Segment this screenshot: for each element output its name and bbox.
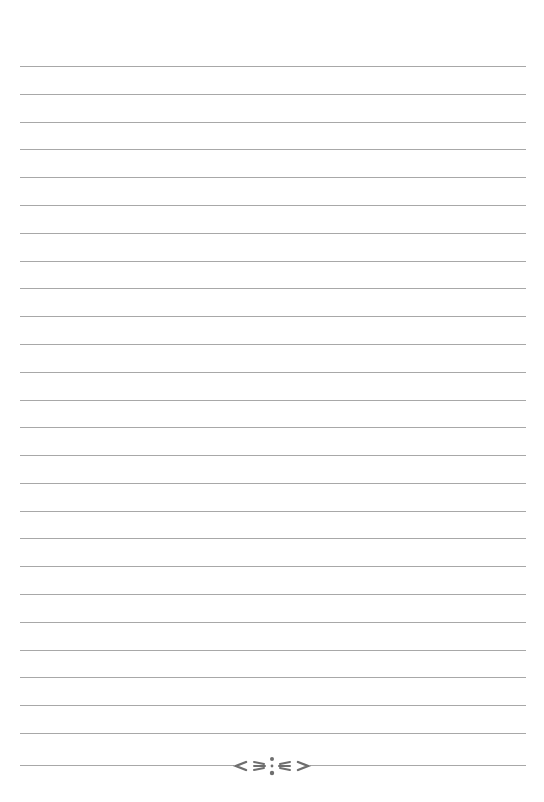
footer-rule-right [310,765,526,766]
ruled-line [20,677,526,678]
ruled-line [20,622,526,623]
ruled-line [20,66,526,67]
floral-divider-icon [232,754,312,778]
ruled-line [20,566,526,567]
ruled-line [20,511,526,512]
ruled-line [20,344,526,345]
ruled-line [20,261,526,262]
ruled-line [20,372,526,373]
ruled-line [20,483,526,484]
ruled-line [20,288,526,289]
ruled-line [20,427,526,428]
ruled-line [20,594,526,595]
ruled-line [20,233,526,234]
ruled-line [20,316,526,317]
ruled-line [20,122,526,123]
ruled-line [20,455,526,456]
ruled-line [20,733,526,734]
ruled-line [20,205,526,206]
ruled-line [20,650,526,651]
ruled-line [20,149,526,150]
ruled-line [20,94,526,95]
ruled-line [20,538,526,539]
footer-rule-left [20,765,234,766]
ruled-line [20,400,526,401]
ruled-line [20,705,526,706]
ruled-line [20,177,526,178]
